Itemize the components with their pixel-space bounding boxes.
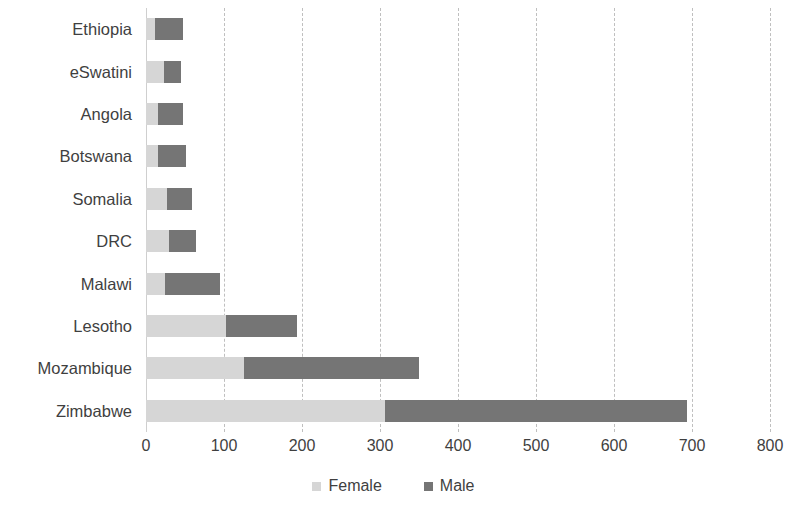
x-tick-label: 200 — [289, 437, 316, 455]
bar-segment-male — [385, 400, 688, 422]
legend-label: Male — [440, 478, 475, 494]
x-tick-label: 400 — [445, 437, 472, 455]
category-label: Ethiopia — [0, 21, 132, 38]
x-tick-label: 500 — [523, 437, 550, 455]
bar-segment-female — [146, 357, 244, 379]
bar-segment-male — [158, 145, 185, 167]
bar-segment-female — [146, 145, 158, 167]
category-label: Botswana — [0, 148, 132, 165]
bar-segment-female — [146, 273, 165, 295]
bar-segment-male — [226, 315, 297, 337]
bar-rows — [146, 8, 770, 432]
category-label: Zimbabwe — [0, 403, 132, 420]
bar-segment-female — [146, 18, 155, 40]
bar-row — [146, 220, 770, 262]
bar-row — [146, 390, 770, 432]
bar-segment-male — [167, 188, 192, 210]
bar-row — [146, 8, 770, 50]
bar-segment-male — [169, 230, 196, 252]
plot-area — [146, 8, 770, 432]
bar-row — [146, 178, 770, 220]
bar-segment-male — [155, 18, 183, 40]
bar-segment-female — [146, 103, 158, 125]
category-label: DRC — [0, 233, 132, 250]
x-tick-label: 100 — [211, 437, 238, 455]
bar-row — [146, 305, 770, 347]
bar-row — [146, 50, 770, 92]
x-tick-label: 300 — [367, 437, 394, 455]
bar-row — [146, 347, 770, 389]
bar-segment-female — [146, 400, 385, 422]
stacked-bar-chart: EthiopiaeSwatiniAngolaBotswanaSomaliaDRC… — [0, 0, 787, 505]
bar-segment-male — [158, 103, 182, 125]
legend-entry[interactable]: Male — [424, 478, 475, 494]
x-tick-label: 600 — [601, 437, 628, 455]
category-label: Malawi — [0, 276, 132, 293]
category-label: Mozambique — [0, 360, 132, 377]
category-label: Angola — [0, 106, 132, 123]
chart-legend: FemaleMale — [0, 478, 787, 494]
value-axis-tick-labels: 0100200300400500600700800 — [146, 437, 770, 461]
x-tick-label: 800 — [757, 437, 784, 455]
category-label: Somalia — [0, 191, 132, 208]
bar-segment-female — [146, 61, 164, 83]
bar-segment-female — [146, 230, 169, 252]
category-label: Lesotho — [0, 318, 132, 335]
x-tick-label: 0 — [142, 437, 151, 455]
category-axis-labels: EthiopiaeSwatiniAngolaBotswanaSomaliaDRC… — [0, 8, 132, 432]
legend-swatch-icon — [424, 482, 433, 491]
bar-row — [146, 262, 770, 304]
legend-swatch-icon — [312, 482, 321, 491]
bar-segment-male — [164, 61, 181, 83]
bar-segment-male — [165, 273, 220, 295]
bar-segment-female — [146, 315, 226, 337]
x-tick-label: 700 — [679, 437, 706, 455]
legend-entry[interactable]: Female — [312, 478, 381, 494]
bar-segment-female — [146, 188, 167, 210]
bar-row — [146, 93, 770, 135]
category-label: eSwatini — [0, 64, 132, 81]
bar-row — [146, 135, 770, 177]
gridline-800 — [770, 8, 771, 432]
legend-label: Female — [328, 478, 381, 494]
bar-segment-male — [244, 357, 419, 379]
